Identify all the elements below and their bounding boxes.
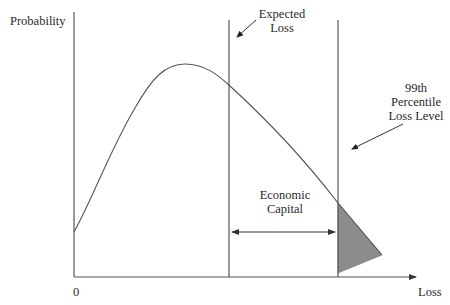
percentile-99-label-line3: Loss Level (382, 109, 450, 123)
origin-label: 0 (73, 285, 79, 299)
expected-loss-label: Expected Loss (258, 7, 306, 35)
y-axis-label: Probability (10, 14, 66, 28)
economic-capital-label-line2: Capital (252, 202, 318, 216)
percentile-99-label-line1: 99th (382, 81, 450, 95)
percentile-99-label: 99th Percentile Loss Level (382, 81, 450, 123)
percentile-99-label-line2: Percentile (382, 95, 450, 109)
economic-capital-label: Economic Capital (252, 188, 318, 216)
expected-loss-label-line2: Loss (258, 21, 306, 35)
loss-distribution-curve (74, 64, 382, 255)
expected-loss-pointer-arrow (237, 20, 256, 37)
percentile-99-pointer-arrow (352, 124, 403, 149)
economic-capital-label-line1: Economic (252, 188, 318, 202)
x-axis-label: Loss (418, 285, 442, 299)
loss-distribution-diagram (0, 0, 450, 305)
shaded-tail-region (338, 203, 382, 273)
expected-loss-label-line1: Expected (258, 7, 306, 21)
